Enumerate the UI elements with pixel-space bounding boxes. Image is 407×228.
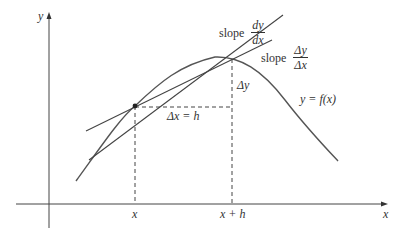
- diagram-canvas: [0, 0, 407, 228]
- tangent-numerator: dy: [251, 19, 264, 33]
- x-plus-h-tick-label: x + h: [220, 208, 245, 220]
- delta-x-label: Δx = h: [167, 110, 199, 122]
- derivative-diagram: y x x x + h Δx = h Δy y = f(x) slope dy …: [0, 0, 407, 228]
- x-axis-label: x: [383, 208, 388, 220]
- delta-y-label: Δy: [237, 79, 249, 91]
- secant-slope-label: slope Δy Δx: [261, 44, 308, 71]
- secant-numerator: Δy: [293, 44, 307, 58]
- y-axis-arrow-icon: [47, 12, 52, 19]
- y-axis-label: y: [38, 10, 43, 22]
- x-axis-arrow-icon: [381, 202, 388, 207]
- secant-slope-fraction: Δy Δx: [293, 44, 307, 71]
- tangent-slope-word: slope: [219, 26, 244, 40]
- x-tick-label: x: [132, 208, 137, 220]
- tangent-slope-fraction: dy dx: [251, 19, 264, 46]
- tangent-slope-label: slope dy dx: [219, 19, 265, 46]
- curve-label: y = f(x): [300, 93, 336, 105]
- function-curve: [76, 57, 338, 181]
- point-p: [133, 104, 138, 109]
- secant-slope-word: slope: [261, 51, 286, 65]
- secant-denominator: Δx: [294, 58, 306, 71]
